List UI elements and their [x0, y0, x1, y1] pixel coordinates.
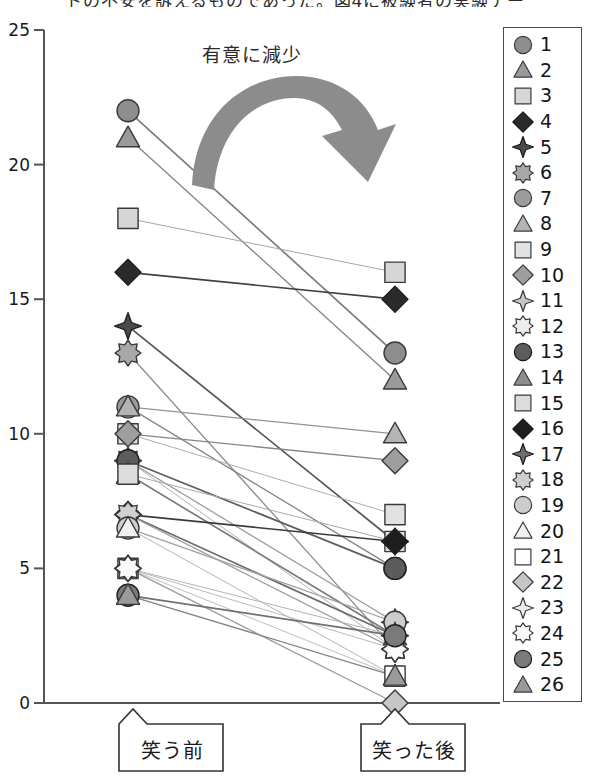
- data-point-before: [115, 555, 141, 581]
- data-point-after: [384, 625, 406, 647]
- legend-symbol-triangle-icon: [510, 212, 536, 236]
- series-line: [128, 407, 395, 569]
- legend-item[interactable]: 13: [504, 339, 581, 365]
- legend-item[interactable]: 19: [504, 493, 581, 519]
- legend-item[interactable]: 6: [504, 160, 581, 186]
- legend-item-label: 19: [540, 496, 564, 515]
- legend-item[interactable]: 17: [504, 442, 581, 468]
- series-line: [128, 515, 395, 542]
- data-point-after: [385, 504, 405, 524]
- callout-before-laughing-label: 笑う前: [124, 735, 220, 764]
- legend-item[interactable]: 5: [504, 134, 581, 160]
- legend-item[interactable]: 16: [504, 416, 581, 442]
- legend-symbol-circle-icon: [510, 186, 536, 210]
- legend-symbol-diamond-icon: [510, 570, 536, 594]
- legend-symbol: [514, 368, 532, 384]
- series-lines-group: [128, 111, 395, 703]
- series-markers-group: [115, 100, 409, 716]
- legend-symbol-star8-icon: [510, 468, 536, 492]
- legend-item-label: 10: [540, 266, 564, 285]
- legend-item-label: 5: [540, 138, 552, 157]
- data-point-after: [384, 557, 406, 579]
- legend-symbol-star8-icon: [510, 161, 536, 185]
- legend-symbol-diamond-icon: [510, 110, 536, 134]
- legend-symbol: [513, 316, 533, 336]
- legend-symbol: [514, 61, 532, 77]
- data-point-after: [383, 368, 406, 389]
- legend-item-label: 11: [540, 291, 564, 310]
- legend-item[interactable]: 2: [504, 58, 581, 84]
- svg-text:0: 0: [19, 693, 30, 713]
- legend-symbol: [513, 444, 534, 465]
- legend-symbol: [515, 88, 531, 104]
- legend-symbol: [514, 36, 531, 53]
- legend-item[interactable]: 11: [504, 288, 581, 314]
- legend-item-label: 23: [540, 598, 564, 617]
- legend-item[interactable]: 8: [504, 211, 581, 237]
- legend-symbol: [514, 522, 532, 538]
- legend-item[interactable]: 7: [504, 186, 581, 212]
- legend-item[interactable]: 10: [504, 262, 581, 288]
- legend-item-label: 9: [540, 240, 552, 259]
- legend-symbol: [513, 597, 534, 618]
- legend-symbol-square-icon: [510, 84, 536, 108]
- legend-item-label: 4: [540, 112, 552, 131]
- legend-item[interactable]: 21: [504, 544, 581, 570]
- legend-symbol-star4-icon: [510, 442, 536, 466]
- series-line: [128, 461, 395, 569]
- legend-item-label: 3: [540, 86, 552, 105]
- data-point-after: [382, 448, 408, 474]
- legend-symbol-triangle-icon: [510, 58, 536, 82]
- legend-item-label: 15: [540, 394, 564, 413]
- legend-symbol: [513, 419, 533, 439]
- legend-symbol-circle-icon: [510, 647, 536, 671]
- legend-item-label: 18: [540, 470, 564, 489]
- data-point-before: [115, 259, 141, 285]
- legend-item[interactable]: 23: [504, 595, 581, 621]
- data-point-before: [115, 340, 141, 366]
- legend-symbol: [513, 111, 533, 131]
- legend-symbol-star4-icon: [510, 596, 536, 620]
- svg-text:10: 10: [8, 424, 30, 444]
- legend-item[interactable]: 20: [504, 518, 581, 544]
- legend-item[interactable]: 1: [504, 32, 581, 58]
- legend-item[interactable]: 14: [504, 365, 581, 391]
- legend-symbol: [513, 623, 533, 643]
- legend-item-label: 2: [540, 61, 552, 80]
- data-point-after: [385, 262, 405, 282]
- series-line: [128, 595, 395, 635]
- legend-item-label: 25: [540, 650, 564, 669]
- legend-symbol: [514, 676, 532, 692]
- legend-item-label: 1: [540, 35, 552, 54]
- legend-item-label: 21: [540, 547, 564, 566]
- series-line: [128, 272, 395, 299]
- legend-item[interactable]: 24: [504, 621, 581, 647]
- legend-symbol: [513, 137, 534, 158]
- legend-symbol: [514, 190, 531, 207]
- legend-item-label: 14: [540, 368, 564, 387]
- legend-item-label: 26: [540, 675, 564, 694]
- legend-item[interactable]: 18: [504, 467, 581, 493]
- legend-symbol: [513, 290, 534, 311]
- legend-symbol: [514, 650, 531, 667]
- legend-item[interactable]: 25: [504, 646, 581, 672]
- legend-item[interactable]: 26: [504, 672, 581, 698]
- series-line: [128, 434, 395, 461]
- legend-item[interactable]: 3: [504, 83, 581, 109]
- legend-item-label: 12: [540, 317, 564, 336]
- legend-symbol: [513, 572, 533, 592]
- legend-symbol-circle-icon: [510, 493, 536, 517]
- legend-item[interactable]: 9: [504, 237, 581, 263]
- legend-item[interactable]: 22: [504, 569, 581, 595]
- data-point-after: [382, 286, 408, 312]
- legend-symbol: [515, 242, 531, 258]
- legend-item[interactable]: 12: [504, 314, 581, 340]
- legend-item-label: 7: [540, 189, 552, 208]
- legend-symbol-star8-icon: [510, 621, 536, 645]
- legend-symbol: [514, 343, 531, 360]
- legend-symbol: [515, 549, 531, 565]
- legend-item[interactable]: 15: [504, 390, 581, 416]
- legend-symbol: [513, 163, 533, 183]
- legend-item[interactable]: 4: [504, 109, 581, 135]
- legend-item-label: 6: [540, 163, 552, 182]
